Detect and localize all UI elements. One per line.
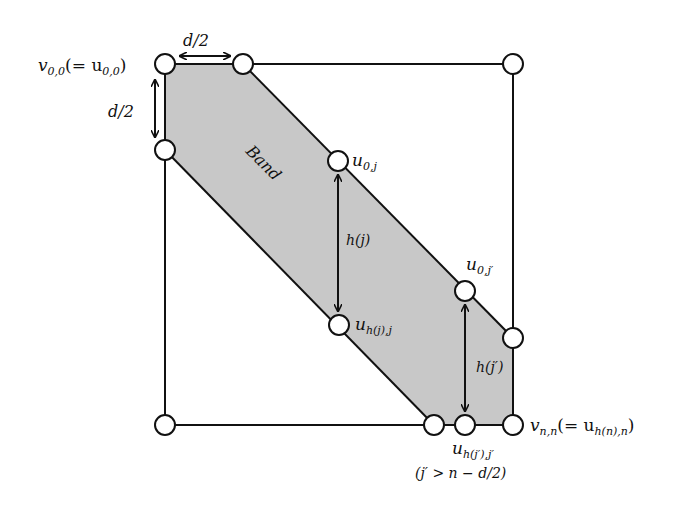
band-diagram: v0,0(= u0,0) d/2 d/2 Band u0,j h(j) uh(j… [0,0,698,526]
label-hj: h(j) [346,232,370,248]
label-d2-left: d/2 [108,102,134,121]
node-left-band [155,140,175,160]
label-u0jp: u0,j′ [466,254,494,277]
node-v00 [155,54,175,74]
label-u0j: u0,j [352,150,377,173]
node-top-band [233,54,253,74]
label-vnn: vn,n(= uh(n),n) [530,415,635,438]
node-uhjj [329,315,349,335]
node-bottom-band [424,415,444,435]
node-u0jp [455,281,475,301]
label-uhjpjp: uh(j′),j′ [452,438,494,461]
label-v00: v0,0(= u0,0) [38,55,126,78]
node-bottom-left [155,415,175,435]
label-condition: (j′ > n − d/2) [415,465,506,481]
node-uhjpjp [455,415,475,435]
node-right-band [503,328,523,348]
node-vnn [503,415,523,435]
node-top-right [503,54,523,74]
node-u0j [328,151,348,171]
label-hjp: h(j′) [476,359,503,375]
label-d2-top: d/2 [183,31,209,50]
